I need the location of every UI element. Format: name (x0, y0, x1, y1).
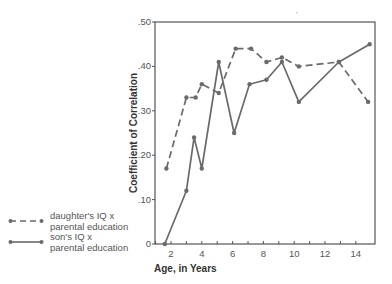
data-point-marker (264, 60, 268, 64)
data-point-marker (366, 100, 370, 104)
dashed-line-swatch-icon (8, 218, 44, 224)
data-point-marker (217, 60, 221, 64)
data-point-marker (367, 42, 371, 46)
data-point-marker (163, 242, 167, 246)
data-point-marker (249, 46, 253, 50)
x-tick-label: 4 (199, 248, 204, 259)
data-point-marker (192, 135, 196, 139)
x-tick-label: 6 (230, 248, 235, 259)
y-tick-label: .10 (138, 194, 151, 205)
data-point-marker (217, 91, 221, 95)
series-son (163, 42, 372, 246)
y-tick-label: .50 (138, 16, 151, 27)
y-tick-label: .40 (138, 60, 151, 71)
legend-label-son: son's IQ x parental education (50, 231, 128, 253)
data-point-marker (184, 95, 188, 99)
y-tick-label: .30 (138, 105, 151, 116)
legend-label-daughter: daughter's IQ x parental education (50, 210, 128, 232)
plot-frame (155, 22, 375, 244)
solid-line-swatch-icon (8, 239, 44, 245)
data-point-marker (247, 82, 251, 86)
legend-label-line1: daughter's IQ x (50, 210, 128, 221)
x-axis-title: Age, in Years (154, 263, 217, 274)
x-tick-label: 2 (168, 248, 173, 259)
legend-item-son: son's IQ x parental education (8, 231, 148, 255)
data-point-marker (297, 64, 301, 68)
plot-series (163, 42, 372, 246)
data-point-marker (280, 55, 284, 59)
data-point-marker (264, 78, 268, 82)
legend-label-line2: parental education (50, 242, 128, 253)
data-point-marker (280, 60, 284, 64)
stray-mark: ' (296, 11, 297, 18)
data-point-marker (184, 189, 188, 193)
data-point-marker (193, 95, 197, 99)
data-point-marker (200, 82, 204, 86)
x-tick-label: 14 (351, 248, 362, 259)
x-tick-label: 10 (289, 248, 300, 259)
series-daughter (164, 46, 370, 170)
data-point-marker (233, 46, 237, 50)
x-tick-label: 8 (261, 248, 266, 259)
data-point-marker (232, 131, 236, 135)
y-tick-label: .20 (138, 149, 151, 160)
data-point-marker (337, 60, 341, 64)
data-point-marker (200, 166, 204, 170)
legend-label-line1: son's IQ x (50, 231, 128, 242)
x-tick-label: 12 (320, 248, 331, 259)
data-point-marker (297, 100, 301, 104)
data-point-marker (164, 166, 168, 170)
y-axis-title: Coefficient of Correlation (128, 73, 139, 193)
